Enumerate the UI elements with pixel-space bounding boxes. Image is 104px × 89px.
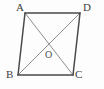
figure-canvas (0, 0, 104, 89)
edge-dc (73, 13, 80, 75)
diagonal-group (18, 13, 80, 75)
vertex-label-b: B (6, 69, 13, 80)
edge-ba (18, 13, 25, 75)
geometry-figure: A D C B O (0, 0, 104, 89)
diagonal-db (18, 13, 80, 75)
vertex-label-d: D (83, 2, 91, 13)
vertex-label-c: C (75, 69, 82, 80)
center-label-o: O (45, 50, 52, 60)
vertex-label-a: A (16, 2, 24, 13)
